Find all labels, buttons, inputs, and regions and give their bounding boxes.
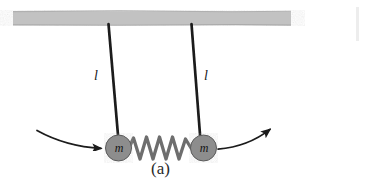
figure-caption: (a) bbox=[151, 160, 170, 177]
pendulum-string-right bbox=[192, 24, 201, 141]
page-edge-artifact bbox=[356, 7, 359, 41]
length-label-right: l bbox=[204, 69, 208, 83]
motion-arrow-right bbox=[218, 129, 270, 149]
mass-label-right: m bbox=[200, 141, 209, 156]
mass-label-left: m bbox=[115, 141, 124, 156]
coupling-spring bbox=[129, 137, 191, 159]
figure-canvas bbox=[0, 0, 366, 184]
physics-figure: l l m m (a) bbox=[0, 0, 366, 184]
ceiling-bar bbox=[13, 11, 291, 25]
motion-arrow-left bbox=[37, 131, 101, 149]
pendulum-string-left bbox=[109, 24, 119, 141]
length-label-left: l bbox=[94, 69, 98, 83]
